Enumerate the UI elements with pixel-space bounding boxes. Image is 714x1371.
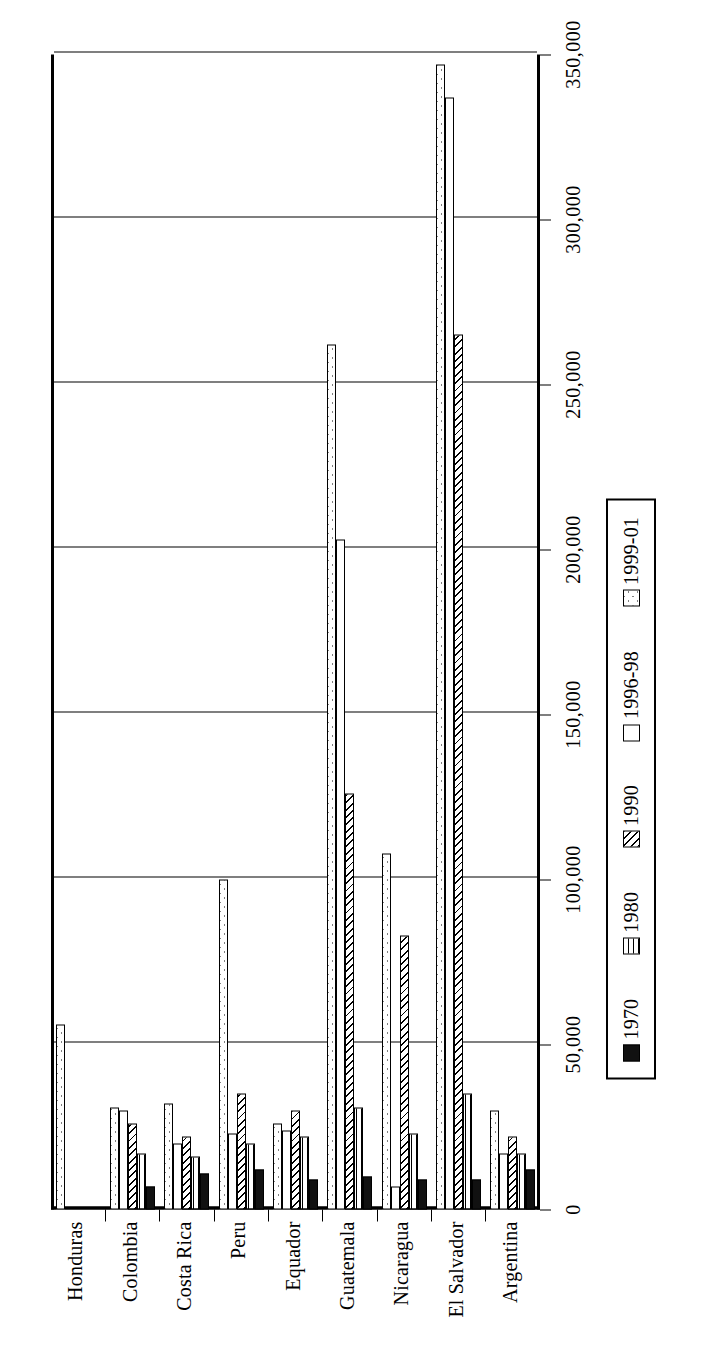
bar-nicaragua-1999-01 bbox=[382, 853, 391, 1209]
value-axis-tick-label: 50,000 bbox=[562, 974, 585, 1114]
bar-guatemala-1980 bbox=[354, 1107, 363, 1209]
value-axis-tick-label: 250,000 bbox=[562, 314, 585, 454]
value-axis-tick-label: 300,000 bbox=[562, 149, 585, 289]
category-label-equador: Equador bbox=[282, 1221, 305, 1371]
bar-nicaragua-1996-98 bbox=[391, 1186, 400, 1209]
gridline bbox=[54, 546, 537, 547]
gridline bbox=[54, 1041, 537, 1042]
value-axis-tick bbox=[540, 219, 551, 220]
value-axis-tick bbox=[540, 549, 551, 550]
gridline bbox=[54, 876, 537, 877]
category-axis-tick bbox=[105, 1209, 106, 1221]
bar-equador-1980 bbox=[300, 1136, 309, 1209]
bar-colombia-1996-98 bbox=[119, 1110, 128, 1209]
legend-label: 1996-98 bbox=[620, 651, 643, 719]
bar-costa-rica-1980 bbox=[191, 1156, 200, 1209]
legend-swatch-diagonal-hatch-icon bbox=[623, 830, 640, 847]
plot-area bbox=[51, 54, 540, 1209]
value-axis-tick-label: 100,000 bbox=[562, 809, 585, 949]
bar-costa-rica-1990 bbox=[182, 1136, 191, 1209]
value-axis-tick bbox=[540, 879, 551, 880]
bar-el-salvador-1996-98 bbox=[445, 97, 454, 1209]
bar-peru-1999-01 bbox=[219, 879, 228, 1209]
gridline bbox=[54, 51, 537, 52]
legend-label: 1970 bbox=[620, 998, 643, 1039]
legend-item-1970[interactable]: 1970 bbox=[620, 998, 643, 1061]
category-label-costa-rica: Costa Rica bbox=[173, 1221, 196, 1371]
value-axis-tick-label: 350,000 bbox=[562, 0, 585, 124]
bar-guatemala-1990 bbox=[345, 793, 354, 1209]
value-axis-tick bbox=[540, 384, 551, 385]
gridline bbox=[54, 216, 537, 217]
value-axis-tick bbox=[540, 1209, 551, 1210]
category-axis-tick bbox=[377, 1209, 378, 1221]
bar-el-salvador-1990 bbox=[454, 335, 463, 1210]
value-axis-tick-label: 150,000 bbox=[562, 644, 585, 784]
value-axis-tick bbox=[540, 54, 551, 55]
bar-el-salvador-1980 bbox=[463, 1094, 472, 1210]
category-label-honduras: Honduras bbox=[64, 1221, 87, 1371]
bar-colombia-1999-01 bbox=[110, 1107, 119, 1209]
bar-guatemala-1996-98 bbox=[336, 539, 345, 1209]
legend-label: 1990 bbox=[620, 785, 643, 826]
legend-item-1996-98[interactable]: 1996-98 bbox=[620, 651, 643, 741]
bar-el-salvador-1970 bbox=[472, 1179, 481, 1209]
bar-peru-1990 bbox=[237, 1094, 246, 1210]
category-axis-tick bbox=[268, 1209, 269, 1221]
bar-colombia-1970 bbox=[146, 1186, 155, 1209]
gridline bbox=[54, 711, 537, 712]
value-axis-tick-label: 0 bbox=[562, 1139, 585, 1279]
bar-equador-1996-98 bbox=[282, 1130, 291, 1209]
category-axis-tick bbox=[322, 1209, 323, 1221]
bar-equador-1970 bbox=[309, 1179, 318, 1209]
bar-argentina-1980 bbox=[517, 1153, 526, 1209]
category-axis-tick bbox=[214, 1209, 215, 1221]
bar-colombia-1990 bbox=[128, 1123, 137, 1209]
legend-swatch-dotted-icon bbox=[623, 590, 640, 607]
legend-item-1990[interactable]: 1990 bbox=[620, 785, 643, 848]
bar-nicaragua-1980 bbox=[409, 1133, 418, 1209]
bar-argentina-1999-01 bbox=[490, 1110, 499, 1209]
legend-label: 1980 bbox=[620, 891, 643, 932]
category-axis-tick bbox=[159, 1209, 160, 1221]
value-axis-tick bbox=[540, 714, 551, 715]
legend-item-1999-01[interactable]: 1999-01 bbox=[620, 516, 643, 606]
bar-costa-rica-1996-98 bbox=[173, 1143, 182, 1209]
bar-colombia-1980 bbox=[137, 1153, 146, 1209]
chart-figure: 050,000100,000150,000200,000250,000300,0… bbox=[0, 0, 714, 1371]
category-label-nicaragua: Nicaragua bbox=[390, 1221, 413, 1371]
legend-item-1980[interactable]: 1980 bbox=[620, 891, 643, 954]
bar-equador-1999-01 bbox=[273, 1123, 282, 1209]
bar-argentina-1990 bbox=[508, 1136, 517, 1209]
chart-stage: 050,000100,000150,000200,000250,000300,0… bbox=[0, 0, 714, 1371]
bar-costa-rica-1970 bbox=[200, 1173, 209, 1209]
category-label-colombia: Colombia bbox=[119, 1221, 142, 1371]
bar-peru-1996-98 bbox=[228, 1133, 237, 1209]
bar-argentina-1996-98 bbox=[499, 1153, 508, 1209]
bar-argentina-1970 bbox=[526, 1169, 535, 1209]
bar-costa-rica-1999-01 bbox=[164, 1103, 173, 1209]
category-label-el-salvador: El Salvador bbox=[445, 1221, 468, 1371]
legend-swatch-white-empty-icon bbox=[623, 724, 640, 741]
value-axis-tick-label: 200,000 bbox=[562, 479, 585, 619]
bar-peru-1980 bbox=[246, 1143, 255, 1209]
bar-guatemala-1970 bbox=[363, 1176, 372, 1209]
chart-legend: 1970198019901996-981999-01 bbox=[606, 498, 656, 1079]
bar-nicaragua-1970 bbox=[418, 1179, 427, 1209]
category-axis-tick bbox=[431, 1209, 432, 1221]
bar-el-salvador-1999-01 bbox=[436, 64, 445, 1209]
bar-honduras-1999-01 bbox=[56, 1024, 65, 1209]
value-axis-tick bbox=[540, 1044, 551, 1045]
bar-equador-1990 bbox=[291, 1110, 300, 1209]
legend-swatch-solid-black-icon bbox=[623, 1044, 640, 1061]
bar-nicaragua-1990 bbox=[400, 935, 409, 1209]
gridline bbox=[54, 381, 537, 382]
category-label-peru: Peru bbox=[227, 1221, 250, 1371]
legend-label: 1999-01 bbox=[620, 516, 643, 584]
category-axis-tick bbox=[485, 1209, 486, 1221]
bar-guatemala-1999-01 bbox=[327, 344, 336, 1209]
bar-peru-1970 bbox=[255, 1169, 264, 1209]
category-label-guatemala: Guatemala bbox=[336, 1221, 359, 1371]
legend-swatch-horizontal-lines-icon bbox=[623, 937, 640, 954]
category-label-argentina: Argentina bbox=[499, 1221, 522, 1371]
